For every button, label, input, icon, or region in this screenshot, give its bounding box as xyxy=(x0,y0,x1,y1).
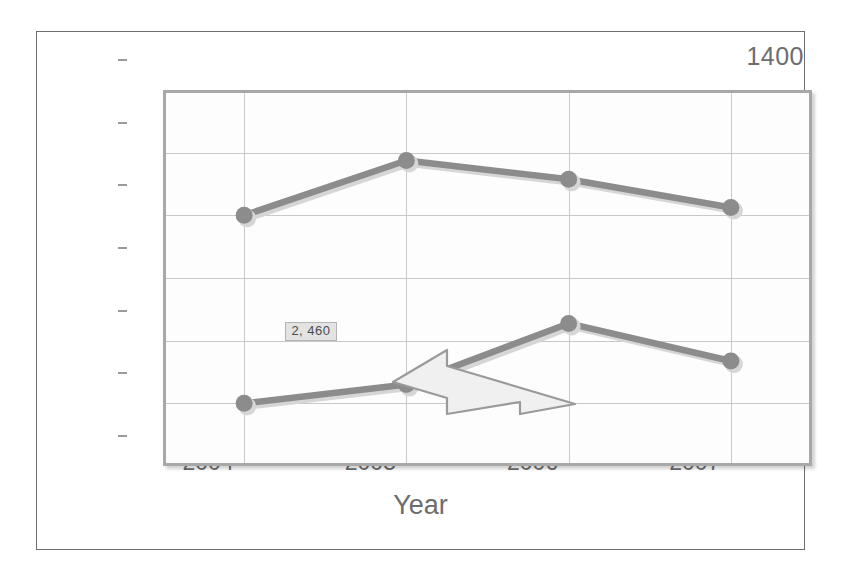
y-axis-tick-mark xyxy=(118,122,127,124)
y-axis-tick-mark xyxy=(118,184,127,186)
y-axis-tick-label: 1400 xyxy=(728,42,804,71)
data-point-marker[interactable] xyxy=(398,376,415,393)
y-axis-tick-mark xyxy=(118,247,127,249)
series-line[interactable] xyxy=(244,161,731,216)
data-point-marker[interactable] xyxy=(236,395,253,412)
series-layer xyxy=(163,90,812,466)
figure-frame: 200400600800100012001400 200420052006200… xyxy=(36,31,805,550)
data-point-marker[interactable] xyxy=(560,171,577,188)
y-axis-tick-mark xyxy=(118,310,127,312)
x-axis-title: Year xyxy=(37,490,804,521)
data-point-marker[interactable] xyxy=(560,315,577,332)
y-axis-tick-mark xyxy=(118,59,127,61)
data-point-marker[interactable] xyxy=(398,152,415,169)
data-point-tooltip: 2, 460 xyxy=(285,322,336,342)
data-point-marker[interactable] xyxy=(722,199,739,216)
data-point-marker[interactable] xyxy=(722,353,739,370)
chart-screenshot: 200400600800100012001400 200420052006200… xyxy=(0,0,842,577)
data-point-marker[interactable] xyxy=(236,207,253,224)
y-axis-tick-mark xyxy=(118,435,127,437)
plot-area xyxy=(163,90,812,466)
y-axis-tick-mark xyxy=(118,372,127,374)
